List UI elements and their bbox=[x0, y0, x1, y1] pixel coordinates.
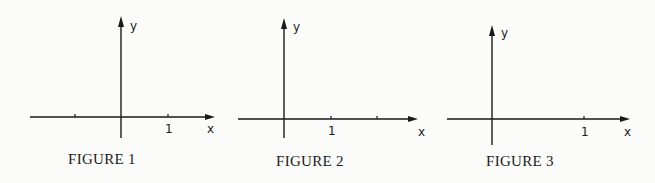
y-axis-label: y bbox=[501, 26, 508, 40]
y-axis-label: y bbox=[130, 19, 137, 33]
figure-caption: FIGURE 2 bbox=[276, 153, 344, 169]
figure-caption: FIGURE 1 bbox=[68, 151, 136, 167]
y-axis-label: y bbox=[293, 20, 300, 34]
tick-label-1: 1 bbox=[165, 122, 173, 136]
y-axis-arrow-icon bbox=[281, 18, 287, 29]
x-axis-arrow-icon bbox=[408, 116, 418, 122]
x-axis-arrow-icon bbox=[620, 116, 630, 122]
figure-1: 1 x y FIGURE 1 bbox=[30, 16, 215, 167]
figure-2: 1 x y FIGURE 2 bbox=[238, 18, 425, 169]
x-axis-arrow-icon bbox=[205, 114, 215, 120]
x-axis-label: x bbox=[624, 125, 631, 139]
y-axis-arrow-icon bbox=[118, 16, 124, 27]
tick-label-1: 1 bbox=[328, 124, 336, 138]
x-axis-label: x bbox=[418, 125, 425, 139]
y-axis-arrow-icon bbox=[489, 25, 495, 36]
tick-label-1: 1 bbox=[581, 125, 589, 139]
figure-3: 1 x y FIGURE 3 bbox=[447, 25, 631, 169]
x-axis-label: x bbox=[207, 122, 214, 136]
figure-caption: FIGURE 3 bbox=[486, 153, 554, 169]
